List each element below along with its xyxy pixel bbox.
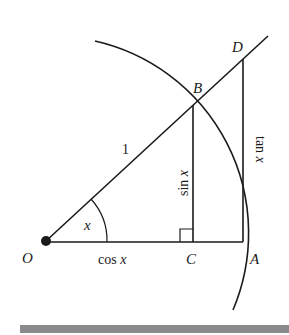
label-C: C xyxy=(186,251,197,267)
bottom-divider-bar xyxy=(20,325,289,333)
label-sin-x: sin x xyxy=(176,169,191,196)
right-angle-marker xyxy=(180,229,193,242)
tan-fn: tan xyxy=(253,136,268,153)
label-radius: 1 xyxy=(122,142,129,157)
sin-var: x xyxy=(176,169,191,177)
label-angle-x: x xyxy=(83,217,91,233)
angle-arc xyxy=(91,199,107,242)
origin-point xyxy=(41,236,51,246)
cos-fn: cos xyxy=(98,252,117,267)
sin-fn: sin xyxy=(176,180,191,196)
unit-circle-diagram: O A C B D 1 x cos x sin x tan x xyxy=(0,0,289,335)
tan-var: x xyxy=(253,156,268,164)
label-O: O xyxy=(22,250,33,266)
cos-var: x xyxy=(119,252,127,267)
label-cos-x: cos x xyxy=(98,252,127,267)
label-A: A xyxy=(249,251,260,267)
label-B: B xyxy=(193,80,202,96)
label-D: D xyxy=(231,39,243,55)
label-tan-x: tan x xyxy=(253,136,268,164)
